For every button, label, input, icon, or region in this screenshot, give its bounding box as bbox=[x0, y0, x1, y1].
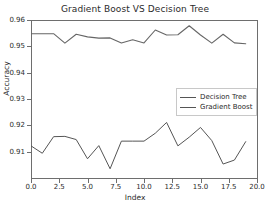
x-tick-label: 15.0 bbox=[188, 184, 214, 191]
x-tick-label: 12.5 bbox=[159, 184, 185, 191]
y-tick-label: 0.96 bbox=[0, 17, 25, 24]
legend-label-gradient-boost: Gradient Boost bbox=[200, 102, 252, 112]
chart-title: Gradient Boost VS Decision Tree bbox=[0, 4, 270, 14]
legend-swatch-gradient-boost bbox=[180, 107, 196, 108]
x-tick-label: 2.5 bbox=[46, 184, 72, 191]
x-tick-label: 17.5 bbox=[216, 184, 242, 191]
chart-figure: Gradient Boost VS Decision Tree 0.910.92… bbox=[0, 0, 270, 204]
x-axis-label: Index bbox=[0, 193, 270, 202]
line-gradient-boost bbox=[31, 26, 246, 44]
y-tick-label: 0.92 bbox=[0, 122, 25, 129]
legend-item-decision-tree: Decision Tree bbox=[180, 92, 252, 102]
y-axis-label: Accuracy bbox=[2, 47, 11, 111]
x-tick-label: 10.0 bbox=[131, 184, 157, 191]
x-tick-label: 5.0 bbox=[75, 184, 101, 191]
chart-legend: Decision Tree Gradient Boost bbox=[176, 88, 257, 116]
y-tick-label: 0.91 bbox=[0, 149, 25, 156]
line-decision-tree bbox=[31, 122, 246, 168]
x-tick-label: 0.0 bbox=[18, 184, 44, 191]
legend-swatch-decision-tree bbox=[180, 97, 196, 98]
x-tick-label: 20.0 bbox=[244, 184, 270, 191]
legend-label-decision-tree: Decision Tree bbox=[200, 92, 247, 102]
x-tick-label: 7.5 bbox=[103, 184, 129, 191]
legend-item-gradient-boost: Gradient Boost bbox=[180, 102, 252, 112]
